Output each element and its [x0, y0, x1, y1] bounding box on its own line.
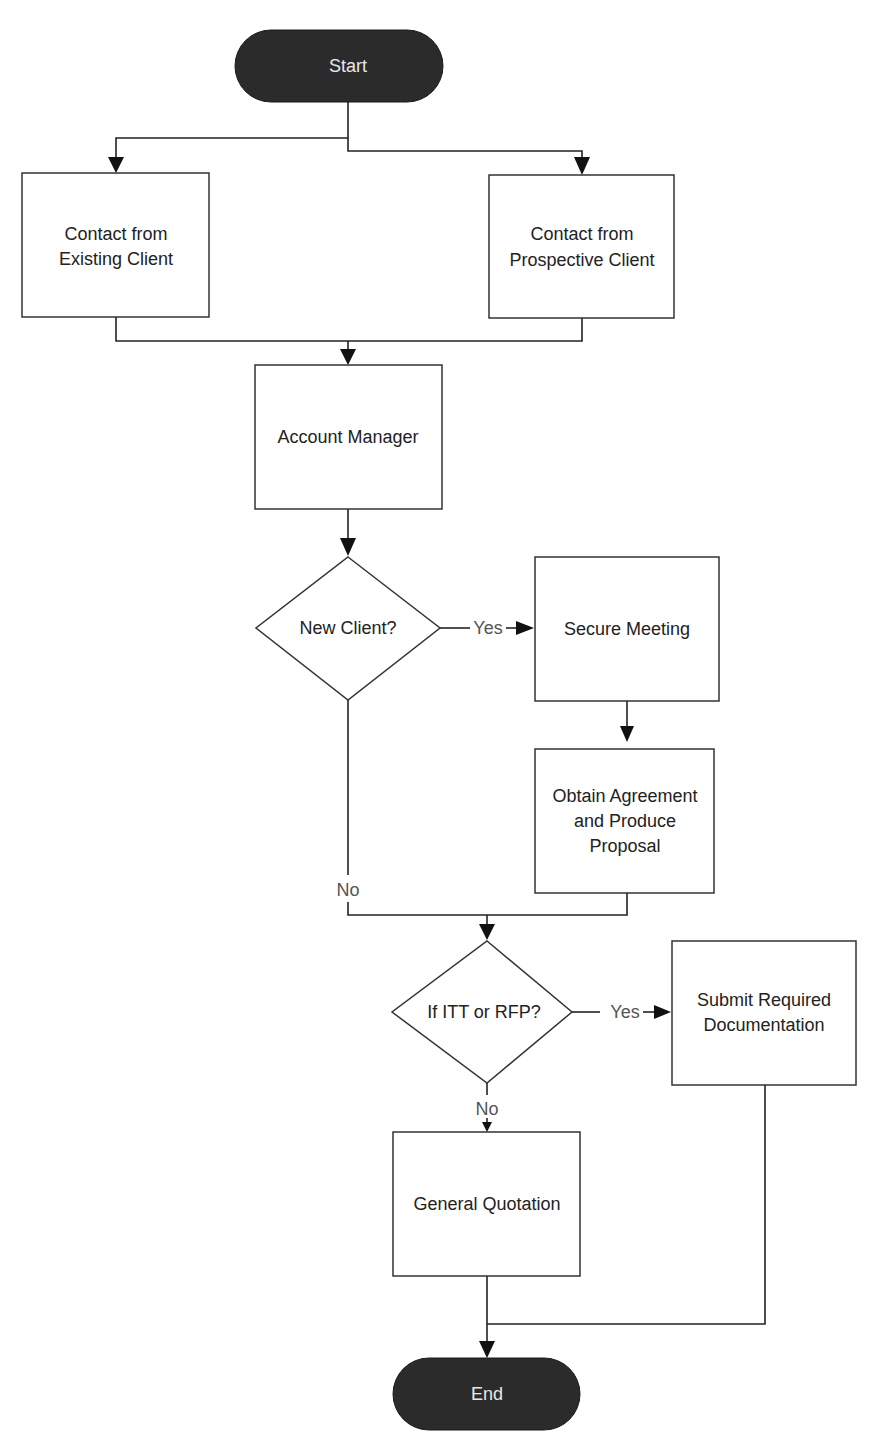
obtain-agreement-line-2: and Produce: [574, 811, 676, 831]
existing-client-box: Contact from Existing Client: [22, 173, 209, 317]
itt-rfp-no-label: No: [475, 1099, 498, 1119]
arrow-right-icon: [654, 1005, 671, 1019]
existing-client-line-2: Existing Client: [59, 249, 173, 269]
edge-no-merge: [348, 893, 627, 915]
arrow-down-icon: [620, 726, 634, 742]
start-label: Start: [329, 56, 367, 76]
new-client-decision: New Client?: [256, 557, 440, 700]
existing-client-line-1: Contact from: [64, 224, 167, 244]
arrow-down-icon: [108, 157, 124, 173]
submit-docs-line-2: Documentation: [703, 1015, 824, 1035]
end-terminal: End: [393, 1358, 580, 1430]
prospective-client-box: Contact from Prospective Client: [489, 175, 674, 318]
obtain-agreement-box: Obtain Agreement and Produce Proposal: [535, 749, 714, 893]
arrow-down-icon: [574, 157, 590, 175]
arrow-down-icon: [479, 924, 495, 940]
obtain-agreement-line-3: Proposal: [589, 836, 660, 856]
new-client-no-label: No: [336, 880, 359, 900]
end-label: End: [471, 1384, 503, 1404]
itt-rfp-label: If ITT or RFP?: [427, 1002, 541, 1022]
secure-meeting-label: Secure Meeting: [564, 619, 690, 639]
new-client-yes-label: Yes: [473, 618, 502, 638]
account-manager-label: Account Manager: [277, 427, 418, 447]
itt-rfp-decision: If ITT or RFP?: [392, 941, 572, 1083]
prospective-client-line-2: Prospective Client: [509, 250, 654, 270]
arrow-down-icon: [482, 1122, 492, 1132]
general-quotation-box: General Quotation: [393, 1132, 580, 1276]
edge-start-to-existing: [116, 102, 348, 160]
edge-start-to-prospective: [348, 138, 582, 160]
obtain-agreement-line-1: Obtain Agreement: [552, 786, 697, 806]
itt-rfp-yes-label: Yes: [610, 1002, 639, 1022]
edge-existing-to-account-manager: [116, 317, 582, 341]
account-manager-box: Account Manager: [255, 365, 442, 509]
secure-meeting-box: Secure Meeting: [535, 557, 719, 701]
flowchart-canvas: Start Contact from Existing Client Conta…: [0, 0, 875, 1445]
arrow-down-icon: [340, 349, 356, 365]
start-terminal: Start: [235, 30, 443, 102]
arrow-right-icon: [516, 621, 534, 635]
new-client-label: New Client?: [299, 618, 396, 638]
arrow-down-icon: [340, 538, 356, 556]
arrow-down-icon: [479, 1341, 495, 1358]
general-quotation-label: General Quotation: [413, 1194, 560, 1214]
prospective-client-line-1: Contact from: [530, 224, 633, 244]
submit-docs-line-1: Submit Required: [697, 990, 831, 1010]
submit-documentation-box: Submit Required Documentation: [672, 941, 856, 1085]
